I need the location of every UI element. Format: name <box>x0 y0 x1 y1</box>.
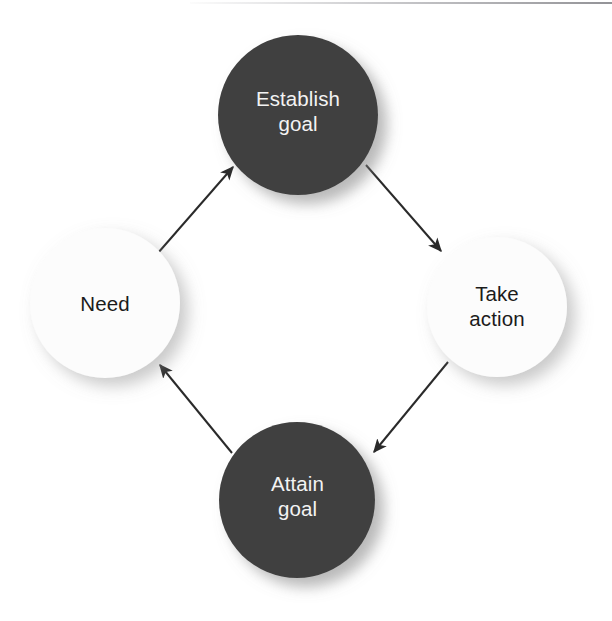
cycle-diagram: Establish goal Take action Attain goal N… <box>0 0 612 621</box>
arrow-need-to-establish-goal <box>158 167 233 253</box>
node-attain-goal[interactable] <box>219 422 375 578</box>
arrow-attain-goal-to-need <box>160 365 232 453</box>
cycle-arrows <box>158 165 448 453</box>
node-take-action[interactable] <box>427 237 567 377</box>
arrow-take-action-to-attain-goal <box>374 362 448 452</box>
cycle-diagram-canvas <box>0 0 612 621</box>
node-need[interactable] <box>30 228 180 378</box>
node-establish-goal[interactable] <box>218 35 378 195</box>
arrow-establish-goal-to-take-action <box>366 165 441 251</box>
